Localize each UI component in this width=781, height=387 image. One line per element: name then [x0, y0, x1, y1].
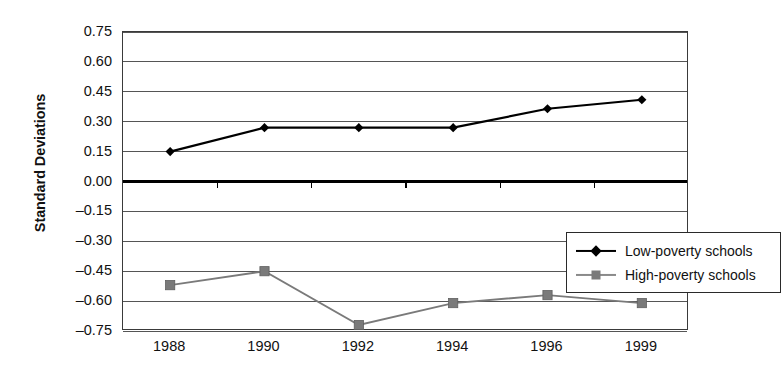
y-tick-label: –0.30	[40, 233, 112, 248]
x-tick-label: 1992	[342, 338, 374, 354]
chart-legend: Low-poverty schools High-poverty schools	[566, 232, 781, 293]
data-point-square	[637, 298, 646, 307]
legend-label-low-poverty: Low-poverty schools	[625, 243, 753, 259]
data-point-square	[166, 281, 175, 290]
x-axis-tick-labels: 198819901992199419961999	[122, 338, 688, 362]
x-tick-label: 1996	[530, 338, 562, 354]
y-tick-label: 0.60	[40, 54, 112, 69]
plot-area: Low-poverty schools High-poverty schools	[122, 31, 688, 330]
legend-label-high-poverty: High-poverty schools	[625, 267, 756, 283]
y-tick-label: 0.75	[40, 24, 112, 39]
series-line	[170, 100, 642, 152]
data-point-diamond	[637, 95, 646, 104]
data-point-diamond	[449, 123, 458, 132]
diamond-marker-icon	[576, 244, 616, 258]
data-point-square	[260, 267, 269, 276]
square-marker-icon	[576, 268, 616, 282]
y-tick-label: 0.00	[40, 173, 112, 188]
y-tick-label: 0.30	[40, 113, 112, 128]
data-point-square	[449, 298, 458, 307]
series-low-poverty	[166, 95, 647, 156]
x-tick-label: 1999	[625, 338, 657, 354]
x-tick-label: 1988	[153, 338, 185, 354]
y-tick-label: –0.15	[40, 203, 112, 218]
data-point-diamond	[543, 104, 552, 113]
y-tick-label: 0.15	[40, 143, 112, 158]
y-tick-label: 0.45	[40, 84, 112, 99]
y-tick-label: –0.45	[40, 263, 112, 278]
legend-item-high-poverty: High-poverty schools	[567, 263, 780, 287]
y-tick-label: –0.75	[40, 323, 112, 338]
data-point-square	[543, 291, 552, 300]
data-point-diamond	[354, 123, 363, 132]
data-point-diamond	[166, 147, 175, 156]
x-tick-label: 1990	[247, 338, 279, 354]
legend-item-low-poverty: Low-poverty schools	[567, 239, 780, 263]
x-tick-label: 1994	[436, 338, 468, 354]
data-point-diamond	[260, 123, 269, 132]
y-axis-tick-labels: 0.750.600.450.300.150.00–0.15–0.30–0.45–…	[40, 31, 112, 330]
y-tick-label: –0.60	[40, 293, 112, 308]
data-point-square	[354, 320, 363, 329]
